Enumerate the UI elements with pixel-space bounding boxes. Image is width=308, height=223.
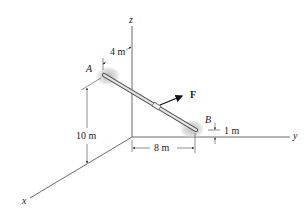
dimension-4m-label: 4 m <box>110 47 125 57</box>
diagram-canvas: z y x A B F 4 m 10 m 8 m 1 m <box>0 0 308 223</box>
x-axis-label: x <box>22 196 26 206</box>
y-axis-label: y <box>293 131 297 141</box>
point-a-label: A <box>86 64 92 74</box>
z-axis-label: z <box>129 15 133 25</box>
dimension-8m-label: 8 m <box>154 143 169 153</box>
dimension-10m-label: 10 m <box>76 131 96 141</box>
rod <box>104 75 196 130</box>
dimension-1m-label: 1 m <box>224 126 239 136</box>
dimension-10m <box>81 78 101 163</box>
dimension-1m <box>208 123 220 144</box>
coordinate-axes <box>30 26 290 198</box>
point-b-label: B <box>205 115 211 125</box>
diagram-svg <box>0 0 308 223</box>
force-arrow <box>160 96 182 105</box>
force-label: F <box>190 90 196 100</box>
x-axis <box>30 137 132 198</box>
